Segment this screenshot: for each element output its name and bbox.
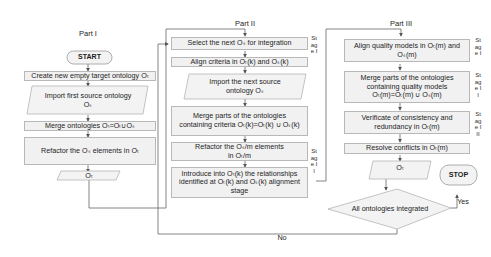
part1-step-merge: Merge ontologies Oₜ=Oₜ∪Oₛ: [24, 121, 156, 131]
part3-stage2-label: Stage II: [474, 72, 482, 98]
part3-step-align: Align quality models in Oₜ(m) and Oₛ(m): [344, 39, 470, 62]
part2-stage2-label: Stage II: [310, 148, 318, 174]
part3-step-verify: Verificate of consistency and redundancy…: [344, 111, 470, 134]
part2-step-select: Select the next Oₛ for integration: [171, 37, 308, 50]
stop-label: STOP: [440, 171, 477, 180]
part1-title: Part I: [70, 29, 106, 38]
part3-stage3-label: Stage III: [474, 111, 482, 137]
no-label: No: [272, 234, 292, 243]
part1-output-ot: Oₜ: [75, 172, 103, 181]
part3-step-resolve: Resolve conflicts in Oₜ(m): [344, 143, 470, 154]
decision-all-integrated: All ontologies integrated: [340, 205, 440, 214]
part2-stage1-label: Stage I: [310, 35, 318, 55]
part2-step-refactor: Refactor the Oₛ/m elements in Oₜ/m: [171, 142, 308, 161]
part2-step-merge: Merge parts of the ontologies containing…: [171, 106, 308, 136]
part3-title: Part III: [380, 19, 422, 28]
yes-label: Yes: [453, 198, 473, 207]
start-label: START: [67, 53, 112, 62]
part1-step-create: Create new empty target ontology Oₜ: [24, 71, 156, 81]
part3-stage1-label: Stage I: [474, 37, 482, 57]
part3-step-merge: Merge parts of the ontologies containing…: [344, 71, 470, 103]
part2-title: Part II: [225, 19, 265, 28]
part2-step-align: Align criteria in Oₜ(k) and Oₛ(k): [171, 57, 308, 67]
part2-step-introduce: Introduce into Oₜ(k) the relationships i…: [171, 167, 308, 198]
part2-step-import: Import the next source ontology Oₛ: [196, 78, 294, 95]
part3-output-ot: Oₜ: [384, 164, 416, 173]
part1-step-import: Import first source ontology Oₛ: [40, 92, 136, 109]
part1-step-refactor: Refactor the Oₛ elements in Oₜ: [24, 137, 156, 165]
